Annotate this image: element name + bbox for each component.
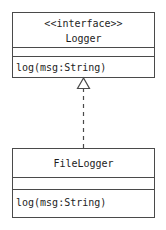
class-box-logger[interactable]: <<interface>> Logger log(msg:String) (12, 12, 155, 78)
class-box-filelogger[interactable]: FileLogger log(msg:String) (12, 148, 155, 218)
class-name-compartment-filelogger: FileLogger (13, 149, 154, 177)
hollow-triangle-arrowhead-icon (78, 78, 90, 89)
attributes-compartment-filelogger (13, 177, 154, 189)
class-title-logger: Logger (13, 31, 154, 46)
operation-item: log(msg:String) (16, 60, 154, 75)
operation-item: log(msg:String) (16, 195, 154, 210)
uml-class-diagram: <<interface>> Logger log(msg:String) Fil… (0, 0, 166, 230)
operations-compartment-logger: log(msg:String) (13, 56, 154, 79)
attributes-compartment-logger (13, 47, 154, 56)
operations-compartment-filelogger: log(msg:String) (13, 189, 154, 217)
class-title-filelogger: FileLogger (13, 156, 154, 171)
class-name-compartment-logger: <<interface>> Logger (13, 13, 154, 47)
stereotype-label-logger: <<interface>> (13, 16, 154, 31)
